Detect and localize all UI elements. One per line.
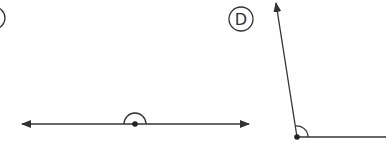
label-c-circle-icon xyxy=(0,7,5,29)
angle-d-vertex-point xyxy=(294,134,300,140)
label-d: D xyxy=(229,7,253,31)
angle-d-slanted-ray xyxy=(276,3,297,137)
straight-angle-vertex-point xyxy=(132,121,138,127)
figure-d: D xyxy=(229,3,386,140)
figure-c xyxy=(0,7,249,127)
label-d-text: D xyxy=(235,10,247,29)
angles-diagram: D xyxy=(0,0,386,144)
